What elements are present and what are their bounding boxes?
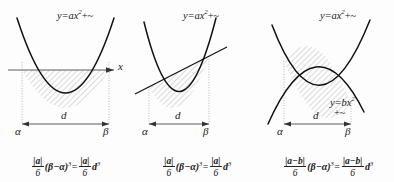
tick-label-alpha: α <box>15 126 21 137</box>
formula-fraction-right: |a−b| 6 <box>342 156 364 179</box>
formula-lhs-factor: (β−α)3 <box>45 161 72 172</box>
formula-fraction-left: |a| 6 <box>163 156 175 179</box>
tick-label-beta: β <box>103 126 108 137</box>
tick-label-alpha: α <box>142 126 148 137</box>
width-arrowhead-left <box>284 122 291 127</box>
panel-2-formula: |a| 6 (β−α)3 = |a| 6 d3 <box>131 156 262 179</box>
curve-label-a: y=ax2+~ <box>320 9 356 21</box>
shaded-region <box>22 70 109 108</box>
formula-fraction-right: |a| 6 <box>79 156 91 179</box>
formula-equals: = <box>202 162 209 172</box>
width-label-d: d <box>313 110 319 121</box>
tick-label-alpha: α <box>277 126 283 137</box>
formula-fraction-left: |a−b| 6 <box>284 156 306 179</box>
curve-label-a: y=ax2+~ <box>57 9 93 21</box>
panel-3-formula: |a−b| 6 (β−α)3 = |a−b| 6 d3 <box>262 156 394 179</box>
panel-1-formula: |a| 6 (β−α)3 = |a| 6 d3 <box>0 156 131 179</box>
tick-label-beta: β <box>203 126 208 137</box>
formula-rhs-factor: d3 <box>365 161 373 172</box>
formula-rhs-factor: d3 <box>223 161 231 172</box>
x-axis-arrowhead <box>106 67 114 73</box>
quadratic-area-figure: y=ax2+~ x α β d |a| 6 (β−α)3 = |a| 6 d3 <box>0 0 394 182</box>
formula-rhs-factor: d3 <box>92 161 100 172</box>
formula-fraction-right: |a| 6 <box>210 156 222 179</box>
x-axis-label: x <box>118 61 123 72</box>
formula-equals: = <box>71 162 78 172</box>
width-arrowhead-left <box>22 122 29 127</box>
width-arrowhead-left <box>149 122 156 127</box>
curve-label-a: y=ax2+~ <box>183 9 219 21</box>
width-label-d: d <box>175 110 181 121</box>
tick-label-beta: β <box>345 126 350 137</box>
formula-equals: = <box>334 162 341 172</box>
formula-fraction-left: |a| 6 <box>32 156 44 179</box>
panel-parabola-with-chord: y=ax2+~ α β d |a| 6 (β−α)3 = |a| 6 d3 <box>131 0 262 182</box>
width-label-d: d <box>61 110 67 121</box>
formula-lhs-factor: (β−α)3 <box>176 161 203 172</box>
panel-parabola-with-axis: y=ax2+~ x α β d |a| 6 (β−α)3 = |a| 6 d3 <box>0 0 131 182</box>
panel-two-parabolas: y=ax2+~ y=bx2 +~ α β d |a−b| 6 (β−α)3 = … <box>262 0 393 182</box>
curve-label-b-tail: +~ <box>334 107 345 118</box>
formula-lhs-factor: (β−α)3 <box>307 161 334 172</box>
